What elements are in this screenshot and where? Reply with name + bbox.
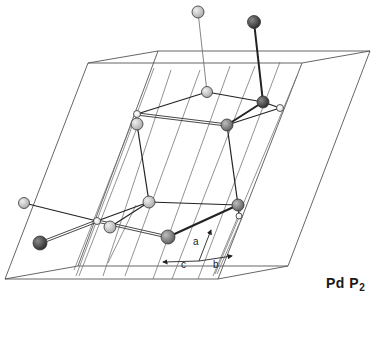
axis-a-label: a xyxy=(193,236,199,247)
atom-top-light xyxy=(192,6,204,18)
projection-line xyxy=(76,68,154,276)
axis-c-label: c xyxy=(181,259,186,270)
atom-left-light-upper xyxy=(131,118,143,130)
atom-center-dark xyxy=(161,230,175,244)
bond xyxy=(254,22,263,102)
projection-line xyxy=(103,70,171,276)
atom-small-white-left-upper xyxy=(134,111,141,118)
axis-b-label: b xyxy=(213,259,219,270)
bond xyxy=(137,92,207,114)
projection-line xyxy=(79,120,140,276)
atom-far-left-light xyxy=(19,198,30,209)
cell-edge xyxy=(288,51,370,266)
bond xyxy=(168,205,238,237)
cell-edge xyxy=(302,51,370,63)
projection-line xyxy=(125,70,200,276)
axis-a-arrow xyxy=(199,230,211,261)
atom-left-dark xyxy=(33,236,47,250)
crystal-structure-diagram: abc xyxy=(0,0,373,343)
bond xyxy=(207,92,263,102)
atom-lower-right-mid xyxy=(232,199,244,211)
bond xyxy=(149,202,238,205)
atom-small-white-center xyxy=(94,218,101,225)
atom-small-white-right xyxy=(277,105,284,112)
cell-edge xyxy=(5,266,78,279)
cell-projection-lines xyxy=(74,62,297,279)
bond xyxy=(137,124,149,202)
bond xyxy=(24,203,97,221)
compound-label: Pd P2 xyxy=(326,275,365,293)
projection-line xyxy=(153,66,230,279)
bond xyxy=(227,125,238,205)
cell-edge xyxy=(88,51,158,63)
atom-small-white-lower-right xyxy=(236,213,242,219)
cell-edge xyxy=(218,266,288,279)
atom-lower-light-center xyxy=(104,221,116,233)
atom-mid-dark xyxy=(221,119,233,131)
projection-line xyxy=(74,120,133,270)
atom-top-dark xyxy=(248,16,261,29)
compound-subscript: 2 xyxy=(359,282,365,293)
atom-mid-dark-right xyxy=(257,96,269,108)
bond xyxy=(137,113,227,124)
atom-lower-light xyxy=(143,196,155,208)
projection-line xyxy=(217,215,243,274)
atom-mid-light xyxy=(202,87,213,98)
cell-edge xyxy=(218,63,302,279)
bond xyxy=(137,115,227,126)
unit-cell xyxy=(5,51,370,279)
compound-formula: Pd P xyxy=(326,275,359,291)
cell-edge xyxy=(5,63,88,279)
bond xyxy=(198,12,207,92)
